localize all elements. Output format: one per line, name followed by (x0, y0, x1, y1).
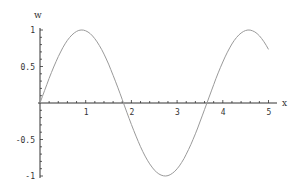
chart: 1234510.5-0.5-1 x w (0, 0, 299, 193)
svg-text:0.5: 0.5 (21, 63, 36, 72)
svg-text:1: 1 (30, 26, 35, 35)
y-axis-label: w (34, 10, 42, 20)
svg-text:5: 5 (267, 108, 272, 117)
svg-text:-0.5: -0.5 (16, 136, 35, 145)
x-axis-label: x (282, 98, 287, 108)
svg-text:2: 2 (129, 108, 134, 117)
svg-text:4: 4 (221, 108, 226, 117)
svg-text:3: 3 (175, 108, 180, 117)
svg-text:-1: -1 (25, 172, 35, 181)
svg-text:1: 1 (84, 108, 89, 117)
